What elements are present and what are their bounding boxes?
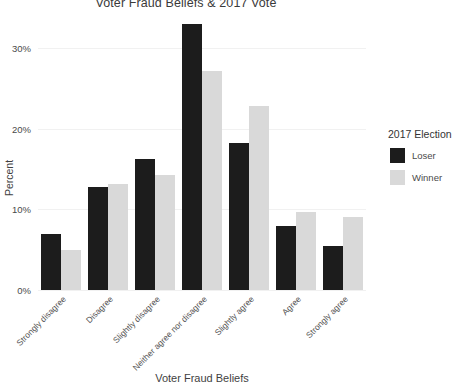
legend-swatch-icon (390, 148, 405, 163)
bar-group (132, 24, 179, 290)
x-axis-labels: Strongly disagreeDisagreeSlightly disagr… (38, 292, 366, 362)
legend-item-winner[interactable]: Winner (390, 170, 459, 185)
bar-group (225, 24, 272, 290)
y-axis-tick-label: 0% (17, 285, 31, 296)
bar-loser[interactable] (276, 226, 296, 290)
bar-winner[interactable] (155, 175, 175, 290)
x-axis-label-slot: Strongly disagree (38, 292, 85, 362)
x-axis-label-slot: Slightly agree (225, 292, 272, 362)
bar-loser[interactable] (323, 246, 343, 290)
bar-winner[interactable] (61, 250, 81, 290)
x-axis-tick-label: Disagree (84, 294, 115, 325)
bar-groups (38, 24, 366, 290)
bar-winner[interactable] (202, 71, 222, 290)
chart-title: Voter Fraud Beliefs & 2017 Vote (0, 0, 372, 10)
bar-winner[interactable] (108, 184, 128, 290)
legend-title: 2017 Election (388, 128, 459, 140)
y-axis: Percent 0%10%20%30% (0, 24, 36, 290)
bar-winner[interactable] (296, 212, 316, 290)
x-axis-label-slot: Strongly agree (319, 292, 366, 362)
bar-loser[interactable] (88, 187, 108, 290)
bar-loser[interactable] (135, 159, 155, 290)
y-axis-tick-label: 20% (12, 123, 31, 134)
legend-swatch-icon (390, 170, 405, 185)
gridline (38, 290, 366, 291)
legend-item-label: Loser (412, 150, 436, 161)
legend: 2017 Election LoserWinner (390, 128, 459, 192)
bar-group (272, 24, 319, 290)
bar-winner[interactable] (249, 106, 269, 290)
bar-loser[interactable] (229, 143, 249, 291)
bar-group (319, 24, 366, 290)
y-axis-tick-label: 30% (12, 43, 31, 54)
bar-group (38, 24, 85, 290)
plot-area (38, 24, 366, 290)
bar-loser[interactable] (41, 234, 61, 290)
x-axis-tick-label: Agree (280, 294, 303, 317)
x-axis-title: Voter Fraud Beliefs (38, 372, 366, 384)
legend-item-label: Winner (412, 172, 442, 183)
bar-group (179, 24, 226, 290)
y-axis-tick-label: 10% (12, 204, 31, 215)
legend-items: LoserWinner (390, 148, 459, 185)
legend-item-loser[interactable]: Loser (390, 148, 459, 163)
bar-loser[interactable] (182, 24, 202, 290)
x-axis-tick-label: Strongly disagree (15, 294, 69, 348)
bar-winner[interactable] (343, 217, 363, 290)
bar-group (85, 24, 132, 290)
